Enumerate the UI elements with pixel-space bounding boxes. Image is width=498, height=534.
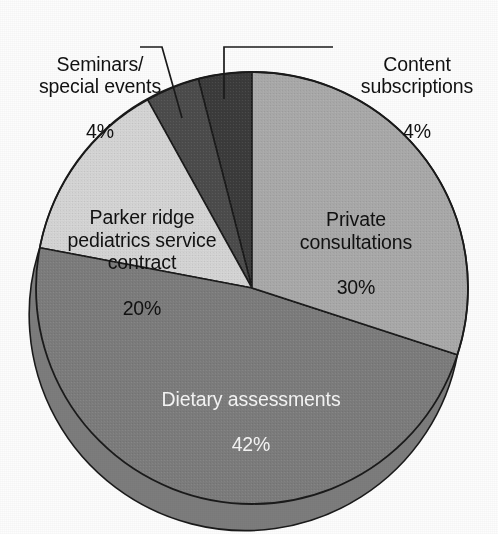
pie-label-dietary-assessments: Dietary assessments 42% <box>142 365 360 479</box>
pie-label-dietary-percent: 42% <box>142 433 360 456</box>
pie-label-dietary-name: Dietary assessments <box>142 388 360 411</box>
pie-label-private-percent: 30% <box>288 276 424 299</box>
pie-label-private-consultations: Private consultations 30% <box>288 185 424 322</box>
pie-label-content-subscriptions: Content subscriptions 4% <box>338 30 496 166</box>
pie-label-seminars-percent: 4% <box>12 120 188 143</box>
pie-label-seminars-name: Seminars/ special events <box>12 53 188 98</box>
pie-chart-figure: Seminars/ special events 4% Content subs… <box>0 0 498 534</box>
pie-label-parker-name: Parker ridge pediatrics service contract <box>58 206 226 274</box>
pie-label-parker-ridge: Parker ridge pediatrics service contract… <box>58 183 226 343</box>
pie-label-private-name: Private consultations <box>288 208 424 254</box>
pie-label-seminars-special-events: Seminars/ special events 4% <box>12 30 188 166</box>
pie-label-parker-percent: 20% <box>58 297 226 320</box>
pie-label-content-name: Content subscriptions <box>338 53 496 98</box>
pie-label-content-percent: 4% <box>338 120 496 143</box>
